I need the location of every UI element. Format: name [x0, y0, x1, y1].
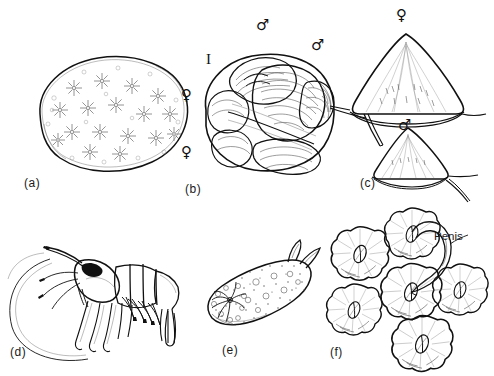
male-symbol-upper-b: ♂	[256, 18, 269, 33]
panel-label-f: (f)	[330, 345, 343, 359]
female-symbol-upper-b: ♀	[181, 88, 192, 103]
panel-label-d: (d)	[10, 345, 26, 359]
nudibranch-drawing	[196, 238, 321, 343]
panel-c-illustration	[336, 28, 491, 188]
penis-label: Penis	[434, 230, 463, 242]
colonial-tunicate-drawing	[28, 48, 198, 178]
panel-e-illustration	[196, 238, 321, 343]
panel-label-b: (b)	[185, 182, 201, 196]
barnacle-6	[392, 315, 453, 371]
male-symbol-right-b: ♂	[311, 38, 324, 53]
figure-plate: (a)	[0, 0, 494, 376]
barnacle-2	[327, 284, 383, 335]
barnacle-5	[433, 264, 489, 315]
panel-label-a: (a)	[24, 176, 40, 190]
intersex-marker-b: I	[206, 52, 211, 67]
limpet-shells-drawing	[336, 28, 491, 188]
panel-a-illustration	[28, 48, 198, 178]
female-symbol-lower-b: ♀	[181, 145, 192, 160]
male-symbol-c: ♂	[398, 118, 411, 133]
panel-d-illustration	[10, 225, 190, 365]
shrimp-drawing	[10, 225, 190, 365]
panel-label-c: (c)	[360, 176, 376, 190]
female-symbol-c: ♀	[396, 8, 407, 23]
panel-label-e: (e)	[222, 343, 238, 357]
barnacle-3	[385, 208, 441, 259]
barnacle-1	[331, 227, 389, 281]
